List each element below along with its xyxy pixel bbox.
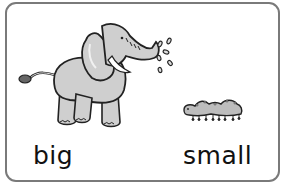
water-spray-icon bbox=[150, 36, 180, 76]
caterpillar-icon bbox=[181, 96, 245, 122]
label-small: small bbox=[183, 143, 252, 168]
elephant-icon bbox=[10, 18, 170, 138]
label-big: big bbox=[33, 143, 73, 168]
